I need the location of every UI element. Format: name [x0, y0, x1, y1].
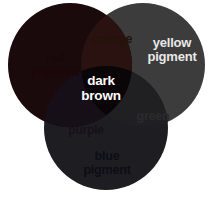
venn-diagram: red pigment orange yellow pigment dark b… [0, 0, 212, 198]
venn-circles-svg [0, 0, 212, 198]
